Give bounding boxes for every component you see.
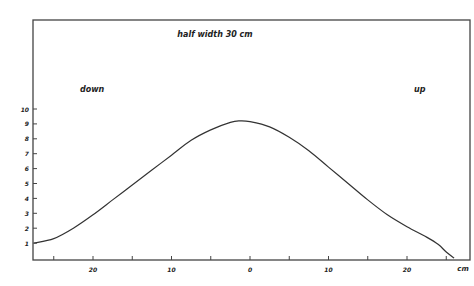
y-tick-label: 6 bbox=[25, 165, 29, 172]
y-tick-label: 1 bbox=[25, 240, 29, 247]
x-tick-label: 10 bbox=[324, 266, 332, 273]
plot-frame bbox=[33, 20, 470, 260]
y-tick-label: 9 bbox=[25, 120, 29, 127]
profile-curve bbox=[34, 121, 454, 258]
x-tick-label: 20 bbox=[89, 266, 97, 273]
y-tick-label: 8 bbox=[25, 135, 29, 142]
y-tick-label: 3 bbox=[25, 210, 29, 217]
chart: 12345678910 201001020 half width 30 cm d… bbox=[0, 0, 474, 286]
chart-title: half width 30 cm bbox=[177, 30, 252, 39]
x-tick-label: 20 bbox=[403, 266, 411, 273]
y-axis: 12345678910 bbox=[21, 106, 37, 247]
x-tick-label: 0 bbox=[248, 266, 252, 273]
y-tick-label: 2 bbox=[25, 225, 29, 232]
annotation-down: down bbox=[80, 85, 105, 94]
y-tick-label: 10 bbox=[21, 106, 29, 113]
x-axis: 201001020 bbox=[54, 256, 447, 273]
y-tick-label: 7 bbox=[25, 150, 30, 157]
x-axis-unit-label: cm bbox=[457, 265, 468, 273]
y-tick-label: 5 bbox=[25, 180, 29, 187]
annotation-up: up bbox=[414, 85, 426, 94]
y-tick-label: 4 bbox=[25, 195, 29, 202]
x-tick-label: 10 bbox=[167, 266, 175, 273]
